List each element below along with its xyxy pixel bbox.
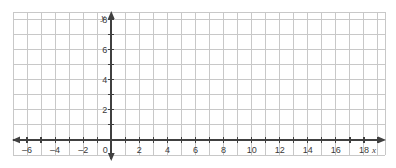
x-tick-label-4: 4 (165, 146, 170, 155)
y-tick-label-6: 6 (98, 45, 107, 54)
x-tick-label-2: 2 (137, 146, 142, 155)
x-tick-label-neg4: –4 (50, 146, 60, 155)
x-tick-label-12: 12 (275, 146, 285, 155)
x-axis-name-label: x (372, 146, 376, 155)
x-tick-label-neg2: –2 (78, 146, 88, 155)
x-tick-label-neg6: –6 (22, 146, 32, 155)
coordinate-plane-figure: –6–4–2024681012141618 2468 x y (0, 0, 396, 168)
x-tick-label-18: 18 (359, 146, 369, 155)
x-tick-label-6: 6 (193, 146, 198, 155)
x-tick-label-14: 14 (303, 146, 313, 155)
x-tick-label-16: 16 (331, 146, 341, 155)
y-tick-label-4: 4 (98, 75, 107, 84)
y-tick-label-2: 2 (98, 105, 107, 114)
grid-canvas (0, 0, 396, 168)
x-tick-label-8: 8 (221, 146, 226, 155)
gridlines (13, 12, 385, 155)
axes (12, 11, 386, 161)
x-tick-label-0: 0 (103, 146, 108, 155)
x-tick-label-10: 10 (247, 146, 257, 155)
y-axis-name-label: y (101, 13, 105, 22)
